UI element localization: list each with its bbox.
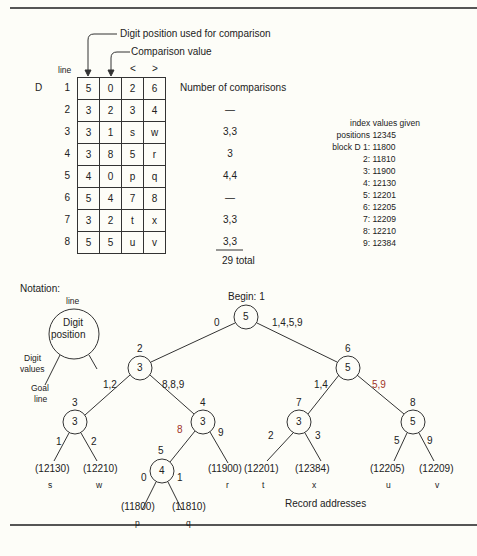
edge-label: 9 [427,435,433,447]
gt-header: > [152,63,158,75]
callout-comparison-value: Comparison value [131,46,212,58]
callout-digit-position: Digit position used for comparison [120,28,271,40]
line-header: line [58,64,71,76]
index-key: 7: [300,214,370,224]
comparison-count: 3,3 [205,126,255,137]
table-row: 40pq [78,166,166,188]
cell-less-than: t [122,210,144,232]
block-label: D [35,82,42,94]
index-row: 3: 11900 [300,166,395,176]
edge-label: 0 [214,317,220,329]
edge-label: 5 [394,435,400,447]
leaf-record: u [386,479,391,491]
notation-digit-values-2: values [20,363,45,375]
cell-greater-than: v [144,232,166,254]
index-row: 6: 12205 [300,202,396,212]
node-line: 2 [137,343,143,355]
begin-label: Begin: 1 [228,291,265,303]
index-value: 12130 [372,178,396,188]
table-row: 5026 [78,78,166,100]
digit-table: 5026 3234 31sw 385r 40pq 5478 32tx 55uv [77,77,166,254]
leaf-address: (11800) [121,501,155,513]
node-digit: 3 [200,416,206,428]
row-line-number: 1 [58,82,70,93]
cell-greater-than: r [144,144,166,166]
cell-comparison-value: 5 [100,232,122,254]
edge-label: 0 [141,472,147,484]
node-digit: 5 [410,416,416,428]
index-value: 11900 [372,166,395,176]
edge-label: 8,8,9 [162,379,184,391]
cell-less-than: 2 [122,78,144,100]
index-row: block D 1: 11800 [300,142,395,152]
table-row: 385r [78,144,166,166]
edge-label: 1 [56,436,62,448]
index-row: 5: 12201 [300,190,396,200]
cell-digit-position: 5 [78,232,100,254]
row-line-number: 8 [58,236,70,247]
cell-less-than: 7 [122,188,144,210]
cell-comparison-value: 4 [100,188,122,210]
edge-label: 2 [91,436,97,448]
node-line: 3 [72,397,78,409]
cell-greater-than: 4 [144,100,166,122]
row-line-number: 7 [58,214,70,225]
row-line-number: 6 [58,192,70,203]
index-key: 2: [300,154,370,164]
leaf-address: (12210) [83,463,117,475]
table-row: 55uv [78,232,166,254]
cell-digit-position: 3 [78,210,100,232]
row-line-number: 5 [58,170,70,181]
index-key: 5: [300,190,370,200]
node-digit: 4 [159,465,165,477]
comparison-count: 3,3 [205,236,255,247]
node-line: 4 [200,397,206,409]
index-value: 12210 [372,226,396,236]
row-line-number: 4 [58,148,70,159]
edge-label: 1,2 [103,379,117,391]
index-value: 11800 [372,142,395,152]
comparisons-total: 29 total [222,255,255,267]
index-key: 6: [300,202,370,212]
index-value: 11810 [372,154,395,164]
row-line-number: 3 [58,126,70,137]
node-line: 5 [158,445,164,457]
cell-comparison-value: 8 [100,144,122,166]
index-value: 12201 [372,190,396,200]
index-row: 9: 12384 [300,238,396,248]
leaf-address: (12130) [35,463,69,475]
index-key: positions [300,130,370,140]
index-key: 3: [300,166,370,176]
leaf-address: (12205) [370,463,404,475]
edge-label: 5,9 [372,379,386,391]
cell-greater-than: q [144,166,166,188]
index-value: 12209 [372,214,396,224]
notation-title: Notation: [20,283,60,295]
table-row: 32tx [78,210,166,232]
index-row: 2: 11810 [300,154,395,164]
comparison-count: — [205,192,255,203]
cell-digit-position: 5 [78,188,100,210]
leaf-record: x [312,479,316,491]
index-positions-row: positions 12345 [300,130,396,140]
notation-goal-2: line [34,393,47,405]
node-digit: 3 [137,362,143,374]
leaf-record: t [262,479,264,491]
comparison-count: 3 [205,148,255,159]
edge-label: 1 [177,472,183,484]
cell-greater-than: 6 [144,78,166,100]
cell-greater-than: x [144,210,166,232]
leaf-record: w [96,479,102,491]
leaf-record: s [48,479,52,491]
leaf-address: (12384) [295,463,329,475]
index-value: 12205 [372,202,396,212]
cell-comparison-value: 2 [100,100,122,122]
node-digit: 5 [243,311,249,323]
node-line: 6 [345,343,351,355]
edge-label: 1,4,5,9 [272,317,303,329]
table-row: 3234 [78,100,166,122]
index-row: 7: 12209 [300,214,396,224]
cell-comparison-value: 0 [100,78,122,100]
cell-greater-than: 8 [144,188,166,210]
node-line: 7 [296,397,302,409]
